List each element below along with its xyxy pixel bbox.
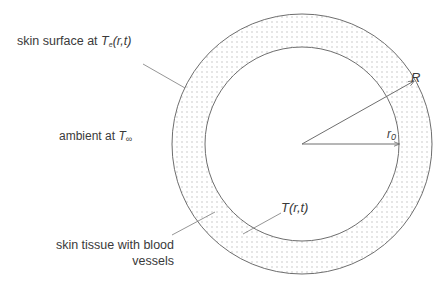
inner-radius-label: r0 xyxy=(387,127,396,145)
inner-radius-subscript: 0 xyxy=(391,132,396,142)
ambient-temp-subscript: ∞ xyxy=(126,134,132,144)
skin-tissue-label: skin tissue with bloodvessels xyxy=(48,237,174,269)
ambient-temp-symbol: T xyxy=(118,129,125,143)
outer-radius-label: R xyxy=(411,70,420,85)
tissue-temperature-label: T(r,t) xyxy=(281,200,308,215)
ambient-label-text: ambient at xyxy=(59,129,118,143)
skin-surface-label: skin surface at Te(r,t) xyxy=(17,34,131,52)
tissue-label-line2: vessels xyxy=(48,253,174,269)
surface-label-text: skin surface at xyxy=(17,34,101,48)
ambient-label: ambient at T∞ xyxy=(59,129,132,147)
surface-temp-symbol: T xyxy=(101,34,109,48)
surface-temp-args: (r,t) xyxy=(113,34,132,48)
tissue-label-line1: skin tissue with blood xyxy=(48,237,174,253)
